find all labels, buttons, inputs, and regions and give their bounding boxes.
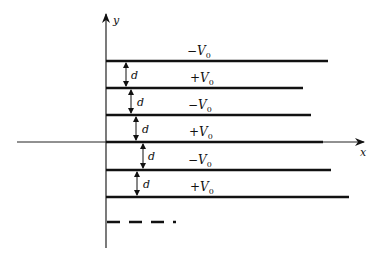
svg-text:+V0: +V0 <box>189 125 213 141</box>
x-axis-label: x <box>360 146 367 159</box>
svg-text:−V0: −V0 <box>188 153 212 169</box>
potential-label-4: −V0 <box>188 153 212 169</box>
svg-text:−V0: −V0 <box>188 98 212 114</box>
spacing-label-1: d <box>131 69 138 82</box>
spacing-label-5: d <box>143 178 150 191</box>
spacing-label-3: d <box>142 123 149 136</box>
svg-text:+V0: +V0 <box>190 71 214 87</box>
potential-label-top: −V0 <box>187 44 211 60</box>
svg-text:−V0: −V0 <box>187 44 211 60</box>
spacing-label-2: d <box>137 96 144 109</box>
potential-label-5: +V0 <box>190 180 214 196</box>
potential-label-1: +V0 <box>190 71 214 87</box>
potential-label-3: +V0 <box>189 125 213 141</box>
svg-text:+V0: +V0 <box>190 180 214 196</box>
spacing-label-4: d <box>148 150 155 163</box>
plate-diagram: x y d d d d d −V0 +V0 −V0 +V0 <box>0 0 377 264</box>
potential-label-2: −V0 <box>188 98 212 114</box>
y-axis-label: y <box>112 14 120 27</box>
